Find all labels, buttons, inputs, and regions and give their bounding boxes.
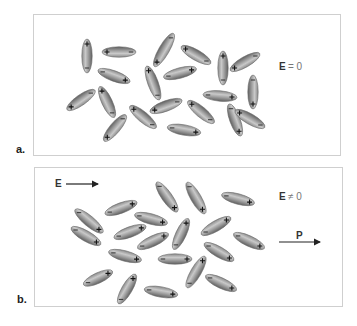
dipole-molecule: [114, 272, 140, 307]
panel-b-molecules: [69, 179, 267, 306]
dipole-molecule: [112, 221, 148, 242]
dipole-molecule: [182, 180, 209, 216]
molecule-diagram: E = 0 E E ≠ 0 P: [0, 0, 357, 326]
dipole-molecule: [199, 213, 234, 239]
dipole-molecule: [220, 190, 256, 209]
dipole-molecule: [103, 197, 139, 218]
dipole-molecule: [231, 229, 266, 253]
field-relation: ≠ 0: [288, 191, 302, 202]
field-E-label: E: [279, 61, 286, 72]
dipole-molecule: [152, 179, 181, 214]
dipole-molecule: [185, 97, 218, 127]
dipole-molecule: [203, 271, 238, 295]
dipole-molecule: [203, 89, 238, 102]
dipole-molecule: [150, 31, 178, 69]
dipole-molecule: [95, 84, 119, 119]
dipole-molecule: [248, 75, 258, 109]
dipole-molecule: [228, 49, 263, 75]
dipole-molecule: [107, 247, 143, 266]
polarization-arrow: P: [279, 230, 320, 242]
dipole-molecule: [218, 51, 228, 85]
applied-field-arrow: E: [55, 178, 98, 189]
panel-b-field-label: E ≠ 0: [279, 191, 302, 202]
dipole-molecule: [82, 39, 92, 73]
polarization-label: P: [296, 230, 303, 241]
dipole-molecule: [81, 267, 114, 290]
dipole-molecule: [143, 284, 178, 300]
dipole-molecule: [64, 86, 98, 114]
applied-field-label: E: [55, 178, 62, 189]
dipole-molecule: [202, 239, 237, 265]
dipole-molecule: [148, 95, 184, 116]
field-E-label: E: [279, 191, 286, 202]
dipole-molecule: [158, 254, 192, 264]
dipole-molecule: [142, 64, 164, 101]
dipole-molecule: [179, 42, 214, 68]
panel-a-molecules: [64, 31, 267, 144]
dipole-molecule: [169, 216, 193, 251]
panel-a-field-label: E = 0: [279, 61, 303, 72]
dipole-molecule: [96, 65, 132, 86]
field-relation: = 0: [288, 61, 303, 72]
dipole-molecule: [102, 47, 136, 57]
dipole-molecule: [162, 64, 198, 83]
dipole-molecule: [166, 122, 201, 138]
